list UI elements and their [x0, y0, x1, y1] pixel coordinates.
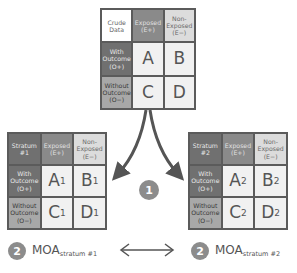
with-outcome-header: With Outcome (O+)	[190, 166, 221, 196]
nonexposed-header: Non-Exposed (E−)	[74, 134, 105, 164]
cell-d2: D2	[255, 198, 286, 228]
nonexposed-header: Non-Exposed (E−)	[255, 134, 286, 164]
stratum-1-corner-label: Stratum #1	[9, 134, 40, 164]
cell-b: B	[165, 43, 194, 74]
step-1-badge: 1	[139, 180, 159, 200]
exposed-header: Exposed (E+)	[133, 10, 162, 41]
split-arrow-left	[118, 110, 146, 174]
without-outcome-header: Without Outcome (O−)	[9, 198, 40, 228]
split-arrow-right	[150, 110, 178, 174]
exposed-header: Exposed (E+)	[223, 134, 254, 164]
stratum-2-table: Stratum #2 Exposed (E+) Non-Exposed (E−)…	[188, 132, 288, 230]
cell-a2: A2	[223, 166, 254, 196]
without-outcome-header: Without Outcome (O−)	[102, 77, 131, 108]
moa-stratum-2-label: MOAstratum #2	[215, 243, 280, 258]
cell-c: C	[133, 77, 162, 108]
crude-data-table: Crude Data Exposed (E+) Non-Exposed (E−)…	[100, 8, 196, 110]
stratum-1-table: Stratum #1 Exposed (E+) Non-Exposed (E−)…	[7, 132, 107, 230]
cell-b2: B2	[255, 166, 286, 196]
cell-a1: A1	[42, 166, 73, 196]
cell-d: D	[165, 77, 194, 108]
stratum-2-corner-label: Stratum #2	[190, 134, 221, 164]
without-outcome-header: Without Outcome (O−)	[190, 198, 221, 228]
nonexposed-header: Non-Exposed (E−)	[165, 10, 194, 41]
cell-d1: D1	[74, 198, 105, 228]
cell-c2: C2	[223, 198, 254, 228]
crude-corner-label: Crude Data	[102, 10, 131, 41]
with-outcome-header: With Outcome (O+)	[102, 43, 131, 74]
exposed-header: Exposed (E+)	[42, 134, 73, 164]
cell-c1: C1	[42, 198, 73, 228]
cell-b1: B1	[74, 166, 105, 196]
moa-stratum-1-label: MOAstratum #1	[32, 243, 97, 258]
step-2-badge-right: 2	[191, 242, 209, 260]
with-outcome-header: With Outcome (O+)	[9, 166, 40, 196]
step-2-badge-left: 2	[8, 242, 26, 260]
cell-a: A	[133, 43, 162, 74]
